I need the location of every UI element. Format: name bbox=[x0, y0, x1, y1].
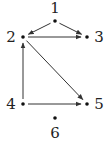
node-3-label: 3 bbox=[94, 28, 104, 46]
edge-1-to-3 bbox=[59, 23, 81, 34]
node-2-dot bbox=[21, 35, 25, 39]
edge-2-to-5 bbox=[26, 41, 82, 100]
edges-group bbox=[23, 23, 83, 104]
node-1-label: 1 bbox=[50, 0, 60, 17]
node-5-dot bbox=[85, 102, 89, 106]
edge-1-to-2 bbox=[28, 23, 50, 34]
node-6-label: 6 bbox=[50, 124, 60, 141]
node-6-dot bbox=[53, 116, 57, 120]
node-4-dot bbox=[21, 102, 25, 106]
node-2-label: 2 bbox=[6, 28, 16, 46]
node-5-label: 5 bbox=[94, 95, 104, 113]
node-4-label: 4 bbox=[6, 95, 16, 113]
node-3-dot bbox=[85, 35, 89, 39]
graph-canvas: 123456 bbox=[0, 0, 112, 141]
node-1-dot bbox=[53, 19, 57, 23]
